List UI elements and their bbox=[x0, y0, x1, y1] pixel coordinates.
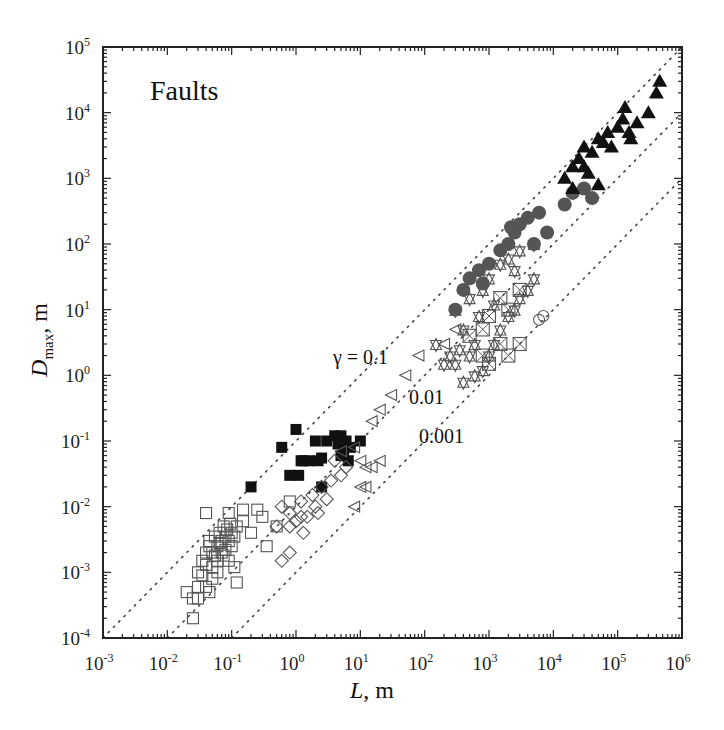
y-tick-label: 10-4 bbox=[61, 626, 90, 649]
y-tick-label: 105 bbox=[65, 35, 90, 58]
y-tick-label: 10-3 bbox=[61, 560, 90, 583]
scatter-chart: 10-310-210-1100101102103104105106 10-410… bbox=[0, 0, 724, 730]
reference-lines bbox=[103, 47, 682, 638]
y-axis-sub: max bbox=[40, 333, 56, 359]
y-axis-unit: , m bbox=[26, 303, 52, 334]
data-points bbox=[181, 74, 667, 624]
gamma-0.01-label: 0.01 bbox=[409, 386, 444, 408]
reference-line-gamma-0.01 bbox=[167, 113, 682, 638]
x-tick-labels: 10-310-210-1100101102103104105106 bbox=[85, 651, 691, 674]
y-tick-label: 10-1 bbox=[61, 429, 90, 452]
y-tick-label: 100 bbox=[65, 363, 90, 386]
y-tick-labels: 10-410-310-210-1100101102103104105 bbox=[61, 35, 90, 649]
y-tick-label: 10-2 bbox=[61, 495, 90, 518]
y-axis-title: Dmax, m bbox=[26, 303, 56, 378]
x-tick-label: 10-1 bbox=[213, 651, 242, 674]
x-tick-label: 104 bbox=[537, 651, 562, 674]
gamma-0.001-label: 0.001 bbox=[419, 425, 464, 447]
x-tick-label: 105 bbox=[601, 651, 626, 674]
x-tick-label: 10-2 bbox=[149, 651, 178, 674]
x-axis-title: L, m bbox=[349, 677, 394, 703]
reference-line-gamma-0.001 bbox=[232, 178, 682, 638]
reference-line-gamma-0.1 bbox=[103, 47, 682, 638]
y-tick-label: 102 bbox=[65, 232, 90, 255]
x-tick-label: 102 bbox=[408, 651, 433, 674]
gamma-0.1-label: γ = 0.1 bbox=[332, 346, 388, 369]
x-tick-label: 106 bbox=[666, 651, 691, 674]
y-axis-var: D bbox=[26, 360, 52, 378]
y-tick-label: 101 bbox=[65, 298, 90, 321]
x-tick-label: 100 bbox=[280, 651, 305, 674]
x-tick-label: 101 bbox=[344, 651, 369, 674]
x-tick-label: 103 bbox=[473, 651, 498, 674]
panel-title: Faults bbox=[150, 75, 218, 106]
x-axis-unit: , m bbox=[363, 677, 394, 703]
y-tick-label: 104 bbox=[65, 101, 90, 124]
x-tick-label: 10-3 bbox=[85, 651, 114, 674]
y-tick-label: 103 bbox=[65, 166, 90, 189]
x-axis-var: L bbox=[349, 677, 363, 703]
